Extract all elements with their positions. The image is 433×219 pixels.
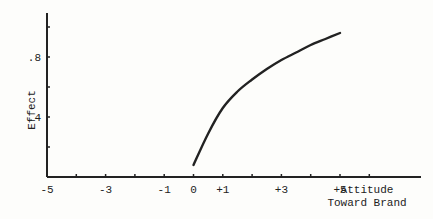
x-axis-title-line2: Toward Brand	[327, 197, 406, 209]
y-tick-label: .8	[28, 52, 41, 64]
x-axis-title-line1: Attitude	[341, 184, 394, 196]
chart: -5-3-10+1+3+5 .4.8 Effect Attitude Towar…	[0, 0, 433, 219]
x-tick-label: -5	[40, 184, 53, 196]
x-tick-label: -3	[99, 184, 112, 196]
x-tick-label: -1	[158, 184, 172, 196]
x-tick-label: +1	[216, 184, 230, 196]
x-tick-label: 0	[190, 184, 197, 196]
y-axis-title: Effect	[26, 90, 38, 130]
x-tick-label: +3	[275, 184, 288, 196]
effect-curve	[194, 33, 341, 165]
x-tick-labels: -5-3-10+1+3+5	[40, 184, 346, 196]
